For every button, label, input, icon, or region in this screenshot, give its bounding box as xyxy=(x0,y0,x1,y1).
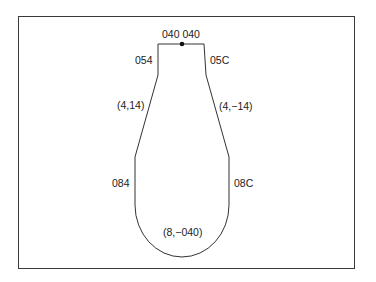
label-right-taper: (4,−14) xyxy=(219,101,253,112)
label-left-taper: (4,14) xyxy=(117,100,144,111)
label-right-lower: 08C xyxy=(234,178,253,189)
label-top: 040 040 xyxy=(162,29,200,40)
label-right-upper: 05C xyxy=(210,55,229,66)
label-left-lower: 084 xyxy=(112,178,130,189)
label-left-upper: 054 xyxy=(135,55,153,66)
label-bottom-arc: (8,−040) xyxy=(163,227,202,238)
profile-drawing xyxy=(0,0,376,282)
start-point-dot xyxy=(180,42,185,47)
